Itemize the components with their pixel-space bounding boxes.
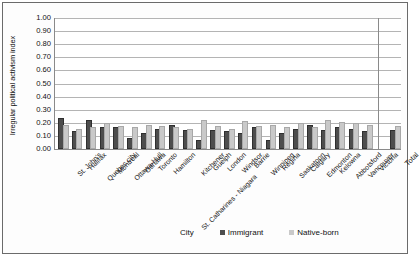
bar-group: [140, 18, 152, 149]
bar-group: [237, 18, 249, 149]
bar-native: [339, 122, 345, 149]
bar-native: [90, 127, 96, 149]
y-axis-tick-label: 0.70: [21, 53, 51, 61]
bar-native: [118, 126, 124, 149]
y-axis-title-text: Irregular political activism index: [9, 35, 18, 134]
y-axis-tick-label: 0.50: [21, 80, 51, 88]
legend-item-immigrant[interactable]: Immigrant: [220, 228, 264, 237]
x-axis-title: City: [180, 228, 194, 237]
y-axis-tick-label: 0.40: [21, 93, 51, 101]
legend-swatch-native-icon: [289, 230, 294, 235]
bar-native: [270, 125, 276, 149]
bar-native: [104, 123, 110, 149]
bar-group: [292, 18, 304, 149]
bar-native: [325, 120, 331, 150]
bar-native: [187, 129, 193, 149]
y-axis-tick-label: 0.80: [21, 40, 51, 48]
bar-native: [215, 126, 221, 149]
bar-native: [159, 126, 165, 149]
bar-group: [320, 18, 332, 149]
y-axis-tick-label: 0.60: [21, 66, 51, 74]
bar-group: [278, 18, 290, 149]
bar-native: [367, 125, 373, 149]
bar-group: [99, 18, 111, 149]
bars-layer: [55, 18, 401, 149]
legend-label: Native-born: [297, 228, 338, 237]
bar-group: [182, 18, 194, 149]
bar-group: [71, 18, 83, 149]
plot-area: [54, 18, 401, 150]
bar-group: [251, 18, 263, 149]
bar-group: [85, 18, 97, 149]
figure-frame: Irregular political activism index 1.000…: [2, 2, 408, 254]
x-axis-tick-label: Regina: [281, 151, 302, 172]
bar-group: [195, 18, 207, 149]
bar-native: [229, 129, 235, 149]
bar-group: [209, 18, 221, 149]
bar-group: [126, 18, 138, 149]
bar-group: [265, 18, 277, 149]
chart-legend: City ImmigrantNative-born: [54, 225, 401, 239]
bar-group: [223, 18, 235, 149]
bar-native: [395, 126, 401, 149]
legend-item-native[interactable]: Native-born: [289, 228, 338, 237]
bar-native: [201, 120, 207, 150]
y-axis-tick-label: 0.30: [21, 106, 51, 114]
bar-native: [284, 127, 290, 149]
x-axis-tick-labels: St. John'sHalifaxQuebec cityMontrealOtta…: [54, 151, 401, 207]
bar-native: [146, 125, 152, 149]
y-axis-tick-label: 0.00: [21, 145, 51, 153]
y-axis-tick-label: 1.00: [21, 14, 51, 22]
y-axis-tick-label: 0.90: [21, 27, 51, 35]
bar-native: [298, 123, 304, 149]
y-axis-title: Irregular political activism index: [6, 15, 20, 155]
bar-native: [312, 127, 318, 149]
y-axis-tick-labels: 1.000.900.800.700.600.500.400.300.200.10…: [21, 12, 51, 154]
y-axis-tick-label: 0.20: [21, 119, 51, 127]
bar-group: [334, 18, 346, 149]
bar-native: [132, 127, 138, 149]
total-group-separator: [378, 18, 379, 149]
bar-group: [168, 18, 180, 149]
x-axis-tick-label: Total: [404, 151, 420, 167]
bar-group: [112, 18, 124, 149]
bar-group: [348, 18, 360, 149]
legend-label: Immigrant: [228, 228, 264, 237]
bar-native: [173, 127, 179, 149]
bar-group: [57, 18, 69, 149]
bar-native: [76, 129, 82, 149]
bar-native: [256, 126, 262, 149]
bar-group: [361, 18, 373, 149]
legend-swatch-immigrant-icon: [220, 230, 225, 235]
bar-native: [63, 125, 69, 149]
bar-group: [154, 18, 166, 149]
y-axis-tick-label: 0.10: [21, 132, 51, 140]
bar-native: [242, 121, 248, 149]
bar-group: [306, 18, 318, 149]
bar-native: [353, 123, 359, 149]
x-axis-tick-label: St. Catharines - Niagara: [200, 173, 258, 231]
bar-group-total: [389, 18, 401, 149]
